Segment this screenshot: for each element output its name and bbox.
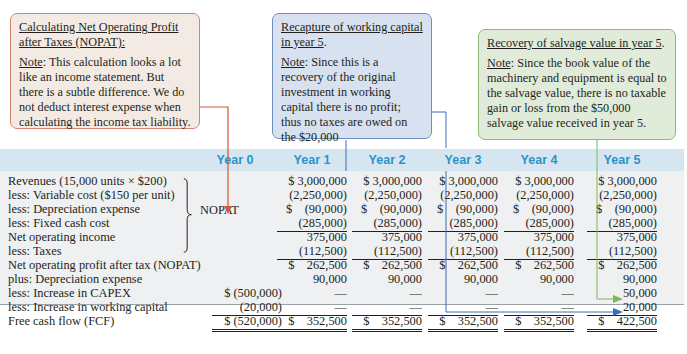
callout-connectors: [0, 0, 687, 354]
salvage-arrow-icon: [613, 295, 623, 303]
working-capital-arrow-icon: [613, 308, 623, 316]
nopat-arrow-icon: [224, 206, 232, 214]
